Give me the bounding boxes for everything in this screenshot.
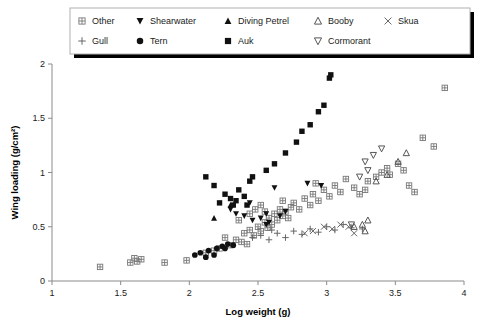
legend-label: Gull xyxy=(92,36,108,46)
series-auk xyxy=(203,72,333,208)
data-point xyxy=(253,207,258,212)
data-point xyxy=(431,144,436,149)
data-point xyxy=(310,192,315,197)
data-point xyxy=(272,185,278,191)
data-point xyxy=(222,192,227,197)
legend-label: Booby xyxy=(328,16,354,26)
x-tick-label: 1.5 xyxy=(114,288,127,298)
data-point xyxy=(370,152,376,158)
data-point xyxy=(206,248,212,254)
data-point xyxy=(315,229,321,235)
data-point xyxy=(247,211,252,216)
data-point xyxy=(351,230,357,236)
x-tick-label: 4 xyxy=(461,288,466,298)
legend-label: Skua xyxy=(398,16,419,26)
y-tick-label: 1.5 xyxy=(32,113,45,123)
data-point xyxy=(302,230,308,236)
data-points-group xyxy=(97,72,447,269)
data-point xyxy=(321,187,326,192)
data-point xyxy=(217,200,222,205)
legend-label: Cormorant xyxy=(328,36,371,46)
data-point xyxy=(357,192,362,197)
data-point xyxy=(203,174,208,179)
data-point xyxy=(442,85,447,90)
data-point xyxy=(222,235,227,240)
data-point xyxy=(294,139,299,144)
data-point xyxy=(236,187,241,192)
data-point xyxy=(357,174,363,180)
data-point xyxy=(316,198,321,203)
chart-canvas: 00.511.5211.522.533.54 Log weight (g)Win… xyxy=(0,0,486,326)
data-point xyxy=(338,189,343,194)
data-point xyxy=(162,260,167,265)
series-other xyxy=(97,85,447,269)
data-point xyxy=(266,237,272,243)
data-point xyxy=(272,161,277,166)
x-tick-label: 1 xyxy=(49,288,54,298)
data-point xyxy=(316,109,321,114)
data-point xyxy=(277,207,282,212)
data-point xyxy=(233,237,238,242)
data-point xyxy=(362,187,367,192)
data-point xyxy=(307,202,312,207)
data-point xyxy=(211,215,217,221)
data-point xyxy=(236,218,241,223)
y-tick-label: 2 xyxy=(40,59,45,69)
data-point xyxy=(230,242,236,248)
y-axis-title: Wing loading (g/cm²) xyxy=(9,126,20,220)
data-point xyxy=(233,198,238,203)
data-point xyxy=(211,252,217,258)
data-point xyxy=(184,258,189,263)
x-tick-label: 3.5 xyxy=(389,288,402,298)
chart-legend: OtherShearwaterDiving PetrelBoobySkuaGul… xyxy=(70,8,474,58)
data-point xyxy=(97,264,102,269)
filled-square-icon xyxy=(225,38,231,44)
data-point xyxy=(343,176,348,181)
data-point xyxy=(401,168,406,173)
data-point xyxy=(222,246,228,252)
x-tick-label: 2.5 xyxy=(252,288,265,298)
data-point xyxy=(211,183,216,188)
legend-frame xyxy=(70,8,470,54)
data-point xyxy=(244,202,249,207)
data-point xyxy=(327,194,332,199)
data-point xyxy=(365,178,370,183)
data-point xyxy=(274,230,280,236)
data-point xyxy=(272,211,277,216)
scatter-chart: 00.511.5211.522.533.54 Log weight (g)Win… xyxy=(0,0,486,326)
data-point xyxy=(258,202,263,207)
data-point xyxy=(328,72,333,77)
data-point xyxy=(286,215,291,220)
data-point xyxy=(297,207,302,212)
y-tick-label: 0.5 xyxy=(32,222,45,232)
x-tick-label: 3 xyxy=(324,288,329,298)
data-point xyxy=(239,239,244,244)
data-point xyxy=(264,168,269,173)
legend-label: Other xyxy=(92,16,115,26)
data-point xyxy=(378,146,384,152)
data-point xyxy=(275,218,280,223)
data-point xyxy=(228,196,233,201)
x-axis-title: Log weight (g) xyxy=(226,306,291,317)
data-point xyxy=(329,226,335,232)
data-point xyxy=(242,194,247,199)
data-point xyxy=(283,150,288,155)
data-point xyxy=(302,196,307,201)
data-point xyxy=(197,250,203,256)
data-point xyxy=(379,170,384,175)
data-point xyxy=(250,218,256,224)
data-point xyxy=(233,211,239,217)
legend-label: Auk xyxy=(238,36,254,46)
data-point xyxy=(321,103,326,108)
data-point xyxy=(214,246,220,252)
data-point xyxy=(203,254,209,260)
legend-label: Tern xyxy=(150,36,168,46)
data-point xyxy=(365,168,371,174)
data-point xyxy=(242,231,247,236)
data-point xyxy=(412,189,417,194)
data-point xyxy=(365,217,371,223)
data-point xyxy=(241,213,247,219)
data-point xyxy=(280,198,285,203)
data-point xyxy=(290,228,296,234)
y-tick-label: 0 xyxy=(40,276,45,286)
